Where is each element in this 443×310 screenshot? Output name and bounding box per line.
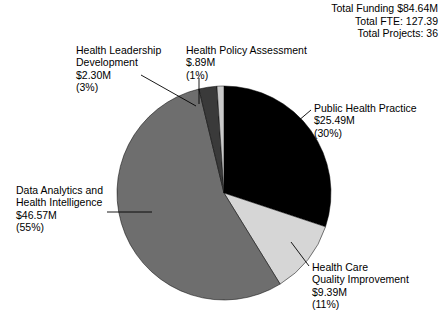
slice-label-percent: (55%) [16, 221, 103, 233]
slice-label-public-health-practice: Public Health Practice $25.49M (30%) [314, 102, 417, 139]
slice-label-health-leadership-development: Health Leadership Development $2.30M (3%… [76, 44, 161, 94]
slice-label-health-policy-assessment: Health Policy Assessment $.89M (1%) [186, 44, 307, 81]
slice-label-line: Health Leadership [76, 44, 161, 56]
slice-label-percent: (30%) [314, 127, 417, 139]
slice-label-line: Health Policy Assessment [186, 44, 307, 56]
slice-label-value: $46.57M [16, 209, 103, 221]
slice-label-line: Data Analytics and [16, 184, 103, 196]
slice-label-percent: (3%) [76, 81, 161, 93]
slice-label-value: $9.39M [312, 286, 409, 298]
slice-label-value: $.89M [186, 56, 307, 68]
pie-slice-group [117, 86, 331, 300]
slice-label-percent: (11%) [312, 298, 409, 310]
slice-label-line: Health Intelligence [16, 196, 103, 208]
slice-label-line: Public Health Practice [314, 102, 417, 114]
slice-label-health-care-quality-improvement: Health Care Quality Improvement $9.39M (… [312, 261, 409, 310]
slice-label-line: Development [76, 56, 161, 68]
slice-label-value: $25.49M [314, 114, 417, 126]
slice-label-line: Health Care [312, 261, 409, 273]
slice-label-value: $2.30M [76, 69, 161, 81]
chart-page: Total Funding $84.64M Total FTE: 127.39 … [0, 0, 443, 310]
slice-label-data-analytics-and-health-intelligence: Data Analytics and Health Intelligence $… [16, 184, 103, 234]
slice-label-percent: (1%) [186, 69, 307, 81]
slice-label-line: Quality Improvement [312, 273, 409, 285]
